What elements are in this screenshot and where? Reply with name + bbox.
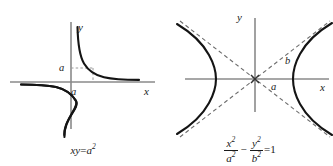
tick-label-y-a: a <box>59 63 64 74</box>
caption-rhs-exponent: 2 <box>92 142 96 151</box>
caption-term1-numerator: x2 <box>224 136 237 151</box>
curve-branch-first-quadrant <box>78 27 140 80</box>
caption-term1-fraction: x2 a2 <box>224 136 237 164</box>
caption-standard-hyperbola: x2 a2 − y2 b2 =1 <box>166 136 333 164</box>
tick-label-semi-minor-b: b <box>285 56 290 67</box>
caption-operator: − <box>239 143 249 155</box>
y-axis-label: y <box>78 22 83 33</box>
caption-term2-denominator: b2 <box>250 151 263 165</box>
caption-term1-denominator: a2 <box>224 151 237 165</box>
caption-term2-numerator: y2 <box>250 136 263 151</box>
caption-lhs: xy <box>70 144 80 156</box>
caption-rectangular-hyperbola: xy=a2 <box>0 142 166 156</box>
tick-label-semi-major-a: a <box>271 82 276 93</box>
panel-rectangular-hyperbola: y x a a xy=a2 <box>0 0 166 166</box>
caption-term2-fraction: y2 b2 <box>250 136 263 164</box>
panel-standard-hyperbola: y x a b x2 a2 − y2 b2 =1 <box>166 0 333 166</box>
caption-rhs: 1 <box>270 143 276 155</box>
y-axis-label: y <box>237 12 242 23</box>
caption-term2-num-exp: 2 <box>257 135 261 144</box>
tick-label-x-a: a <box>71 87 76 98</box>
curve-branch-third-quadrant <box>21 85 77 136</box>
caption-term2-den-exp: 2 <box>257 150 261 159</box>
caption-term1-num-exp: 2 <box>231 135 235 144</box>
caption-term1-den-exp: 2 <box>232 150 236 159</box>
x-axis-label: x <box>144 86 149 97</box>
figure-root: y x a a xy=a2 y x a b <box>0 0 333 166</box>
x-axis-label: x <box>320 82 325 93</box>
